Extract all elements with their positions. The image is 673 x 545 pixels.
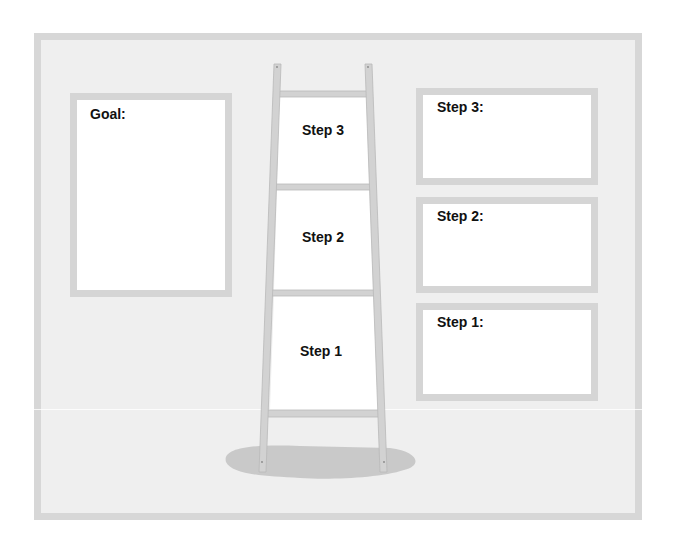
- step-3-label: Step 3:: [437, 99, 484, 115]
- step-1-box[interactable]: Step 1:: [416, 303, 598, 401]
- ladder-rung: [266, 410, 380, 417]
- step-3-box[interactable]: Step 3:: [416, 88, 598, 185]
- ladder-rung-label-step3: Step 3: [278, 122, 368, 138]
- step-2-box[interactable]: Step 2:: [416, 197, 598, 293]
- ladder-rung: [276, 91, 369, 97]
- step-2-label: Step 2:: [437, 208, 484, 224]
- ladder-rung: [273, 184, 372, 190]
- ladder-rung-label-step2: Step 2: [278, 229, 368, 245]
- ladder-panel-step3: [277, 97, 369, 184]
- ladder-rung: [270, 290, 376, 296]
- ladder-rung-label-step1: Step 1: [276, 343, 366, 359]
- step-1-label: Step 1:: [437, 314, 484, 330]
